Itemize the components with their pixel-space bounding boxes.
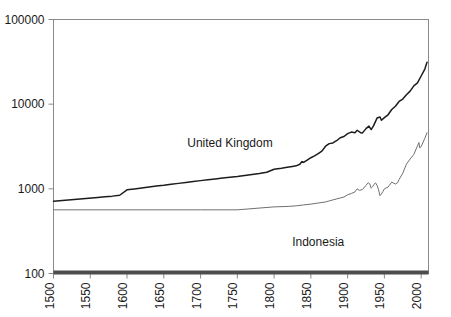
line-chart: United KingdomIndonesia 1001000100001000… (0, 0, 451, 317)
series-line-united-kingdom (54, 62, 428, 201)
x-axis-tick-labels: 1500155016001650170017501800185019001950… (43, 282, 425, 309)
x-tick-label: 1700 (190, 282, 204, 309)
series-annotations: United KingdomIndonesia (187, 136, 344, 249)
y-axis-ticks (49, 20, 54, 274)
x-tick-label: 1950 (373, 282, 387, 309)
x-tick-label: 1650 (153, 282, 167, 309)
x-tick-label: 1550 (79, 282, 93, 309)
y-tick-label: 100000 (4, 13, 44, 27)
series-annotation: Indonesia (292, 235, 344, 249)
x-tick-label: 1850 (300, 282, 314, 309)
x-tick-label: 1900 (337, 282, 351, 309)
chart-container: United KingdomIndonesia 1001000100001000… (0, 0, 451, 317)
y-axis-tick-labels: 100100010000100000 (4, 13, 44, 281)
x-tick-label: 1750 (226, 282, 240, 309)
y-tick-label: 10000 (11, 97, 45, 111)
x-tick-label: 1500 (43, 282, 57, 309)
x-tick-label: 2000 (410, 282, 424, 309)
y-tick-label: 100 (24, 267, 44, 281)
x-axis-band (54, 271, 429, 275)
x-tick-label: 1800 (263, 282, 277, 309)
x-tick-label: 1600 (116, 282, 130, 309)
y-tick-label: 1000 (18, 182, 45, 196)
series-annotation: United Kingdom (187, 136, 272, 150)
